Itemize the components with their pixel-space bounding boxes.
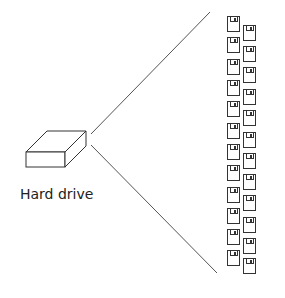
disk-slot bbox=[250, 219, 252, 222]
disk-slot bbox=[234, 167, 236, 170]
floppy-disk-icon bbox=[227, 101, 240, 117]
disk-slot bbox=[234, 210, 236, 213]
floppy-disk-icon bbox=[243, 67, 256, 83]
floppy-disk-icon bbox=[243, 110, 256, 126]
disk-slot bbox=[234, 146, 236, 149]
floppy-disk-icon bbox=[243, 195, 256, 211]
floppy-disk-icon bbox=[227, 208, 240, 224]
disk-slot bbox=[250, 112, 252, 115]
disk-slot bbox=[234, 103, 236, 106]
disk-slot bbox=[234, 39, 236, 42]
upper-projection-line bbox=[91, 12, 210, 134]
floppy-disk-icon bbox=[227, 123, 240, 139]
floppy-disk-icon bbox=[243, 153, 256, 169]
disk-slot bbox=[250, 27, 252, 30]
disk-slot bbox=[250, 176, 252, 179]
disk-slot bbox=[250, 91, 252, 94]
floppy-disk-icon bbox=[227, 80, 240, 96]
lower-projection-line bbox=[91, 145, 217, 273]
disk-slot bbox=[234, 125, 236, 128]
floppy-disk-icon bbox=[243, 25, 256, 41]
disk-slot bbox=[250, 240, 252, 243]
floppy-disk-icon bbox=[227, 37, 240, 53]
floppy-disk-icon bbox=[243, 89, 256, 105]
disk-slot bbox=[234, 252, 236, 255]
floppy-disk-icon bbox=[227, 250, 240, 266]
disk-slot bbox=[250, 69, 252, 72]
floppy-disk-icon bbox=[227, 229, 240, 245]
floppy-disk-icon bbox=[227, 187, 240, 203]
floppy-disk-icon bbox=[243, 46, 256, 62]
disk-slot bbox=[250, 134, 252, 137]
disk-slot bbox=[234, 189, 236, 192]
floppy-disk-icon bbox=[243, 132, 256, 148]
floppy-disk-icon bbox=[227, 16, 240, 32]
disk-slot bbox=[234, 18, 236, 21]
floppy-disk-icon bbox=[227, 144, 240, 160]
disk-slot bbox=[250, 197, 252, 200]
floppy-disk-icon bbox=[243, 174, 256, 190]
floppy-disk-icon bbox=[227, 165, 240, 181]
floppy-disk-icon bbox=[243, 238, 256, 254]
disk-slot bbox=[234, 82, 236, 85]
disk-slot bbox=[250, 48, 252, 51]
floppy-disk-icon bbox=[243, 217, 256, 233]
disk-slot bbox=[234, 61, 236, 64]
disk-slot bbox=[250, 260, 252, 263]
floppy-disk-icon bbox=[243, 258, 256, 274]
hard-drive-box-icon bbox=[26, 131, 86, 167]
floppy-disk-icon bbox=[227, 59, 240, 75]
hard-drive-label: Hard drive bbox=[20, 186, 93, 202]
disk-slot bbox=[234, 231, 236, 234]
disk-slot bbox=[250, 155, 252, 158]
